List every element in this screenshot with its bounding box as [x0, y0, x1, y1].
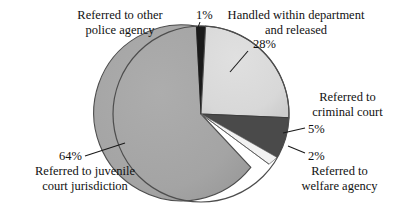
slice-value-welfare-agency: 2% [308, 149, 325, 163]
slice-value-juvenile-court: 64% [59, 149, 82, 163]
slice-label-criminal-court: Referred to criminal court [302, 90, 393, 119]
slice-value-handled-department: 28% [253, 37, 276, 51]
slice-label-welfare-agency: Referred to welfare agency [286, 164, 393, 193]
slice-label-handled-department: Handled within department and released [206, 8, 386, 37]
leader-line-welfare-agency [288, 146, 305, 153]
slice-label-juvenile-court: Referred to juvenile court jurisdiction [2, 164, 168, 193]
pie-chart-figure: Referred to other police agency 1% Handl… [0, 0, 393, 224]
slice-label-police-agency: Referred to other police agency [44, 8, 196, 37]
slice-value-criminal-court: 5% [308, 122, 325, 136]
